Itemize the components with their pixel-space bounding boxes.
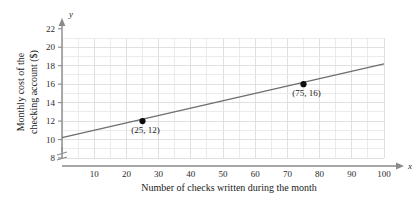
- y-axis-title: Monthly cost of the checking account ($): [15, 50, 40, 134]
- y-axis-arrow-icon: [59, 18, 66, 26]
- data-point-label: (25, 12): [131, 125, 160, 135]
- y-tick-label: 8: [51, 153, 56, 163]
- x-tick-label: 100: [377, 169, 391, 179]
- grid-layer: [62, 38, 384, 158]
- x-axis-arrow-icon: [396, 163, 404, 170]
- data-point-marker: [139, 118, 145, 124]
- x-tick-label: 10: [90, 169, 100, 179]
- data-point-marker: [300, 81, 306, 87]
- x-tick-label: 60: [251, 169, 261, 179]
- x-axis-symbol: x: [407, 161, 412, 171]
- y-tick-label: 10: [46, 135, 56, 145]
- y-axis-title-line1: Monthly cost of the: [15, 52, 26, 131]
- x-axis-title: Number of checks written during the mont…: [141, 182, 317, 193]
- x-tick-label: 90: [347, 169, 357, 179]
- y-tick-label: 14: [46, 98, 56, 108]
- y-axis-title-line2: checking account ($): [28, 50, 40, 134]
- x-tick-label: 20: [122, 169, 132, 179]
- y-tick-label: 16: [46, 79, 56, 89]
- line-chart: 810121416182022 102030405060708090100 (2…: [0, 0, 419, 197]
- y-tick-label: 12: [46, 116, 55, 126]
- x-tick-label: 80: [315, 169, 325, 179]
- x-tick-label: 70: [283, 169, 293, 179]
- x-tick-label: 50: [219, 169, 229, 179]
- x-tick-label: 40: [186, 169, 196, 179]
- x-tick-layer: 102030405060708090100: [90, 169, 392, 179]
- y-tick-label: 18: [46, 61, 56, 71]
- chart-container: 810121416182022 102030405060708090100 (2…: [0, 0, 419, 197]
- y-tick-label: 20: [46, 42, 56, 52]
- x-tick-label: 30: [154, 169, 164, 179]
- data-points-layer: (25, 12)(75, 16): [131, 81, 321, 135]
- y-tick-label: 22: [46, 24, 55, 34]
- y-axis-symbol: y: [68, 9, 73, 19]
- data-point-label: (75, 16): [292, 88, 321, 98]
- y-tick-layer: 810121416182022: [46, 24, 62, 163]
